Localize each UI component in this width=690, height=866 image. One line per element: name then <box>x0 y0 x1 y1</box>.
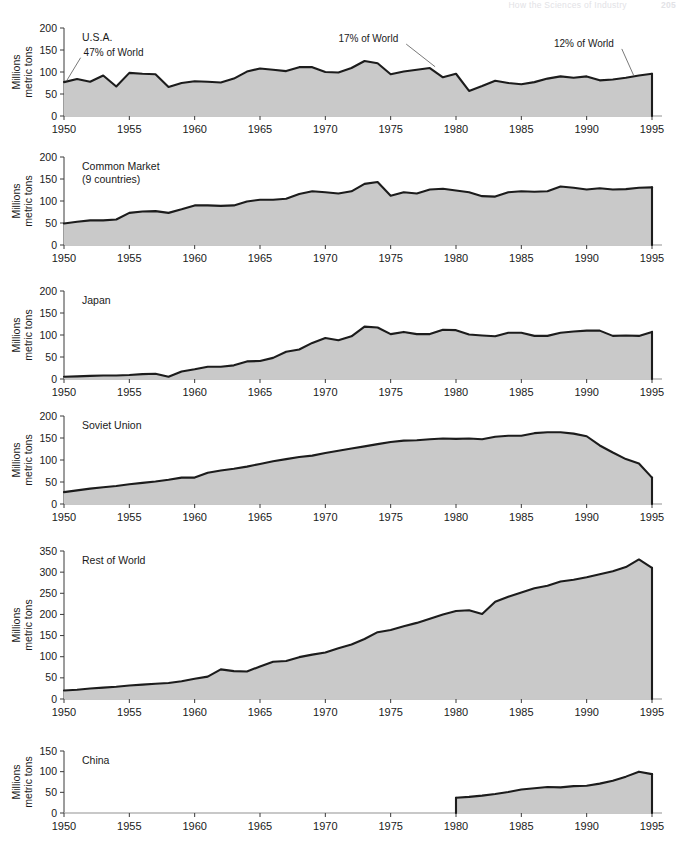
y-tick-label: 200 <box>39 151 57 163</box>
x-tick-label: 1950 <box>52 123 76 135</box>
x-tick-label: 1995 <box>640 386 664 398</box>
x-tick-label: 1985 <box>509 820 533 832</box>
x-tick-label: 1970 <box>313 511 337 523</box>
x-tick-label: 1990 <box>574 386 598 398</box>
series-area-fill <box>64 61 652 116</box>
y-tick-label: 150 <box>39 629 57 641</box>
x-tick-label: 1980 <box>444 252 468 264</box>
x-tick-label: 1985 <box>509 386 533 398</box>
x-tick-label: 1955 <box>117 511 141 523</box>
x-tick-label: 1950 <box>52 706 76 718</box>
x-tick-label: 1985 <box>509 511 533 523</box>
panel-subtitle: (9 countries) <box>82 173 140 185</box>
y-tick-label: 150 <box>39 432 57 444</box>
panel-title: Soviet Union <box>82 419 142 431</box>
y-tick-label: 250 <box>39 587 57 599</box>
page-running-header: How the Sciences of Industry 205 <box>0 0 690 12</box>
y-tick-label: 100 <box>39 66 57 78</box>
panel-title: Japan <box>82 294 111 306</box>
x-tick-label: 1955 <box>117 123 141 135</box>
x-tick-label: 1965 <box>248 252 272 264</box>
panel-title: China <box>82 754 110 766</box>
y-tick-label: 300 <box>39 566 57 578</box>
x-tick-label: 1975 <box>378 820 402 832</box>
y-tick-label: 150 <box>39 307 57 319</box>
x-tick-label: 1970 <box>313 706 337 718</box>
y-axis-title-line2: metric tons <box>22 309 34 360</box>
x-tick-label: 1980 <box>444 820 468 832</box>
x-tick-label: 1955 <box>117 252 141 264</box>
x-tick-label: 1960 <box>182 123 206 135</box>
y-tick-label: 50 <box>45 786 57 798</box>
chart-panel-u-s-a: 0501001502001950195519601965197019751980… <box>0 22 690 140</box>
y-axis-title-line2: metric tons <box>22 434 34 485</box>
panel-title: Common Market <box>82 160 160 172</box>
x-tick-label: 1965 <box>248 706 272 718</box>
x-tick-label: 1990 <box>574 123 598 135</box>
x-tick-label: 1950 <box>52 252 76 264</box>
y-tick-label: 0 <box>51 110 57 122</box>
x-tick-label: 1985 <box>509 706 533 718</box>
y-tick-label: 0 <box>51 498 57 510</box>
chart-panel-soviet-union: 0501001502001950195519601965197019751980… <box>0 409 690 527</box>
y-tick-label: 50 <box>45 88 57 100</box>
x-tick-label: 1965 <box>248 386 272 398</box>
y-tick-label: 100 <box>39 195 57 207</box>
y-tick-label: 100 <box>39 329 57 341</box>
y-tick-label: 100 <box>39 765 57 777</box>
x-tick-label: 1995 <box>640 252 664 264</box>
x-tick-label: 1980 <box>444 706 468 718</box>
y-tick-label: 0 <box>51 693 57 705</box>
y-axis-title-line1: Millions <box>10 317 22 352</box>
x-tick-label: 1990 <box>574 820 598 832</box>
x-tick-label: 1990 <box>574 511 598 523</box>
x-tick-label: 1970 <box>313 123 337 135</box>
x-tick-label: 1975 <box>378 123 402 135</box>
y-tick-label: 150 <box>39 44 57 56</box>
y-tick-label: 200 <box>39 410 57 422</box>
y-tick-label: 0 <box>51 807 57 819</box>
x-tick-label: 1990 <box>574 706 598 718</box>
annotation-label: 17% of World <box>338 33 398 44</box>
y-tick-label: 150 <box>39 173 57 185</box>
x-tick-label: 1965 <box>248 820 272 832</box>
page-number: 205 <box>661 0 676 10</box>
x-tick-label: 1975 <box>378 252 402 264</box>
y-tick-label: 350 <box>39 545 57 557</box>
x-tick-label: 1955 <box>117 706 141 718</box>
x-tick-label: 1960 <box>182 820 206 832</box>
x-tick-label: 1950 <box>52 386 76 398</box>
x-tick-label: 1985 <box>509 252 533 264</box>
x-tick-label: 1975 <box>378 511 402 523</box>
x-tick-label: 1965 <box>248 511 272 523</box>
series-area-fill <box>64 327 652 379</box>
annotation-label: 12% of World <box>554 38 614 49</box>
x-tick-label: 1950 <box>52 820 76 832</box>
chart-panel-china: 0501001501950195519601965197019751980198… <box>0 744 690 836</box>
y-tick-label: 50 <box>45 217 57 229</box>
x-tick-label: 1995 <box>640 123 664 135</box>
panel-title: Rest of World <box>82 554 146 566</box>
y-axis-title-line1: Millions <box>10 442 22 477</box>
y-tick-label: 50 <box>45 671 57 683</box>
x-tick-label: 1975 <box>378 386 402 398</box>
annotation-leader-line <box>622 49 634 76</box>
y-axis-title-line1: Millions <box>10 54 22 89</box>
y-axis-title-line1: Millions <box>10 764 22 799</box>
x-tick-label: 1985 <box>509 123 533 135</box>
x-tick-label: 1960 <box>182 706 206 718</box>
x-tick-label: 1995 <box>640 820 664 832</box>
page-header-title: How the Sciences of Industry <box>508 0 626 10</box>
x-tick-label: 1960 <box>182 386 206 398</box>
x-tick-label: 1960 <box>182 511 206 523</box>
figure-page: How the Sciences of Industry 205 0501001… <box>0 0 690 866</box>
y-tick-label: 200 <box>39 608 57 620</box>
y-tick-label: 200 <box>39 22 57 34</box>
y-tick-label: 50 <box>45 476 57 488</box>
y-tick-label: 50 <box>45 351 57 363</box>
annotation-leader-line <box>406 44 435 67</box>
series-area-fill <box>64 182 652 245</box>
x-tick-label: 1975 <box>378 706 402 718</box>
x-tick-label: 1995 <box>640 511 664 523</box>
x-tick-label: 1980 <box>444 123 468 135</box>
